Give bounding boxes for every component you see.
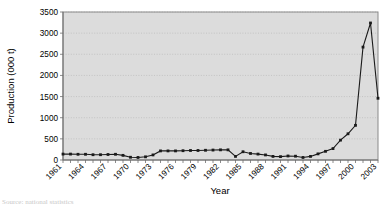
data-point-marker bbox=[362, 46, 365, 49]
data-point-marker bbox=[317, 152, 320, 155]
y-tick-label: 2000 bbox=[40, 71, 59, 80]
data-point-marker bbox=[197, 149, 200, 152]
data-point-marker bbox=[234, 155, 237, 158]
data-point-marker bbox=[212, 149, 215, 152]
x-axis-tick-labels: 1961196419671970197319761979198219851988… bbox=[44, 162, 379, 182]
data-point-marker bbox=[354, 124, 357, 127]
x-tick-label: 1961 bbox=[44, 162, 64, 182]
data-point-marker bbox=[204, 149, 207, 152]
data-point-marker bbox=[377, 97, 380, 100]
data-point-marker bbox=[122, 154, 125, 157]
x-tick-label: 1982 bbox=[202, 162, 222, 182]
chart-figure: 0500100015002000250030003500 19611964196… bbox=[0, 0, 386, 208]
plot-area-background bbox=[63, 12, 378, 160]
data-point-marker bbox=[227, 148, 230, 151]
data-point-marker bbox=[144, 155, 147, 158]
data-point-marker bbox=[287, 155, 290, 158]
y-axis-title: Production (000 t) bbox=[5, 48, 16, 124]
production-line-chart: 0500100015002000250030003500 19611964196… bbox=[0, 0, 386, 208]
data-point-marker bbox=[62, 153, 65, 156]
x-tick-label: 1970 bbox=[112, 162, 132, 182]
x-tick-label: 1964 bbox=[67, 162, 87, 182]
y-tick-label: 3500 bbox=[40, 8, 59, 17]
data-point-marker bbox=[219, 148, 222, 151]
y-tick-label: 1500 bbox=[40, 93, 59, 102]
data-point-marker bbox=[137, 156, 140, 159]
data-point-marker bbox=[84, 153, 87, 156]
x-tick-label: 2000 bbox=[337, 162, 357, 182]
x-tick-label: 1991 bbox=[269, 162, 289, 182]
data-point-marker bbox=[99, 153, 102, 156]
data-point-marker bbox=[242, 150, 245, 153]
data-point-marker bbox=[294, 155, 297, 158]
data-point-marker bbox=[152, 154, 155, 157]
x-tick-label: 1985 bbox=[224, 162, 244, 182]
data-point-marker bbox=[324, 150, 327, 153]
data-point-marker bbox=[272, 155, 275, 158]
data-point-marker bbox=[369, 22, 372, 25]
x-axis-title: Year bbox=[210, 185, 229, 196]
x-tick-label: 1979 bbox=[179, 162, 199, 182]
data-point-marker bbox=[302, 156, 305, 159]
data-point-marker bbox=[309, 155, 312, 158]
x-tick-label: 1988 bbox=[247, 162, 267, 182]
caption-strip: Source: national statistics bbox=[0, 196, 386, 208]
data-point-marker bbox=[69, 153, 72, 156]
data-point-marker bbox=[174, 150, 177, 153]
x-tick-label: 1997 bbox=[314, 162, 334, 182]
data-point-marker bbox=[129, 156, 132, 159]
data-point-marker bbox=[77, 153, 80, 156]
x-tick-label: 1976 bbox=[157, 162, 177, 182]
data-point-marker bbox=[249, 152, 252, 155]
data-point-marker bbox=[167, 150, 170, 153]
data-point-marker bbox=[347, 132, 350, 135]
x-tick-label: 2003 bbox=[359, 162, 379, 182]
x-tick-label: 1994 bbox=[292, 162, 312, 182]
data-point-marker bbox=[92, 153, 95, 156]
data-point-marker bbox=[279, 155, 282, 158]
x-tick-label: 1973 bbox=[134, 162, 154, 182]
data-point-marker bbox=[189, 149, 192, 152]
data-point-marker bbox=[257, 153, 260, 156]
data-point-marker bbox=[339, 139, 342, 142]
y-axis-ticks: 0500100015002000250030003500 bbox=[40, 8, 63, 165]
data-point-marker bbox=[107, 153, 110, 156]
y-tick-label: 3000 bbox=[40, 29, 59, 38]
data-point-marker bbox=[332, 147, 335, 150]
y-tick-label: 2500 bbox=[40, 50, 59, 59]
data-point-marker bbox=[182, 149, 185, 152]
y-tick-label: 1000 bbox=[40, 114, 59, 123]
x-tick-label: 1967 bbox=[89, 162, 109, 182]
caption-text: Source: national statistics bbox=[2, 198, 74, 206]
y-tick-label: 500 bbox=[44, 135, 58, 144]
data-point-marker bbox=[264, 154, 267, 157]
data-point-marker bbox=[114, 153, 117, 156]
data-point-marker bbox=[159, 150, 162, 153]
